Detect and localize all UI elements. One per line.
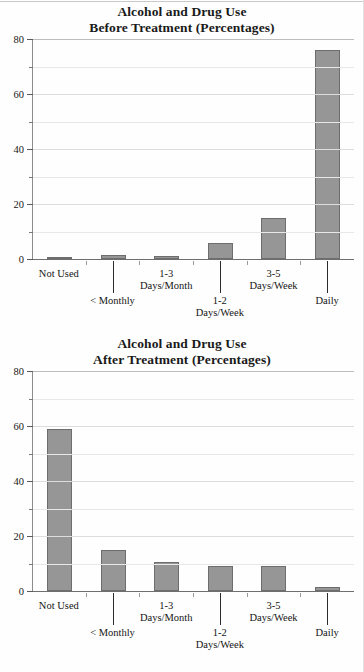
y-tick-40: [27, 149, 33, 150]
x-axis-label: < Monthly: [90, 295, 135, 307]
y-tick-20: [27, 204, 33, 205]
y-tick-80: [27, 371, 33, 372]
x-axis-label: 1-3Days/Month: [140, 268, 193, 291]
plot-wrap-after: 020406080 Not Used< Monthly1-3Days/Month…: [0, 372, 364, 604]
y-tick-70: [29, 67, 33, 68]
x-axis-before: Not Used< Monthly1-3Days/Month1-2Days/We…: [32, 261, 354, 323]
x-axis-label: Daily: [315, 295, 338, 307]
x-tick-minor: [86, 261, 87, 265]
x-tick-minor: [300, 261, 301, 265]
x-axis-label-line1: 1-3: [140, 268, 193, 280]
x-axis-label-line1: Daily: [315, 295, 338, 307]
x-label-leader: [113, 593, 114, 625]
x-tick-minor: [300, 593, 301, 597]
x-axis-label-line1: Not Used: [39, 268, 79, 280]
bar: [154, 562, 179, 591]
x-label-leader: [113, 261, 114, 293]
gridline-30: [33, 509, 354, 510]
y-axis-label: 40: [14, 477, 25, 487]
y-tick-0: [27, 591, 33, 592]
bar: [315, 50, 340, 259]
chart-title-line2: After Treatment (Percentages): [14, 352, 350, 368]
chart-title-after: Alcohol and Drug Use After Treatment (Pe…: [0, 336, 364, 368]
x-tick-minor: [139, 261, 140, 265]
x-axis-label: 1-3Days/Month: [140, 600, 193, 623]
axes-after: [32, 372, 354, 592]
bar: [261, 218, 286, 259]
y-axis-label: 80: [14, 367, 25, 377]
x-axis-label: Daily: [315, 627, 338, 639]
x-axis-label-line2: Days/Week: [249, 612, 297, 624]
y-axis-label: 60: [14, 422, 25, 432]
y-tick-70: [29, 399, 33, 400]
y-tick-50: [29, 122, 33, 123]
x-axis-label: < Monthly: [90, 627, 135, 639]
x-axis-label-line1: < Monthly: [90, 295, 135, 307]
x-axis-label: 3-5Days/Week: [249, 268, 297, 291]
y-tick-30: [29, 177, 33, 178]
figure-page: Alcohol and Drug Use Before Treatment (P…: [0, 0, 364, 672]
y-tick-10: [29, 232, 33, 233]
plot-area-after: [32, 372, 354, 592]
gridline-30: [33, 177, 354, 178]
x-tick-minor: [139, 593, 140, 597]
x-axis-label-line1: 1-2: [196, 295, 244, 307]
chart-after-treatment: Alcohol and Drug Use After Treatment (Pe…: [0, 336, 364, 672]
axes-before: [32, 40, 354, 260]
x-axis-label-line2: Days/Month: [140, 612, 193, 624]
x-axis-label-line1: Not Used: [39, 600, 79, 612]
gridline-70: [33, 399, 354, 400]
x-axis-label-line1: 1-3: [140, 600, 193, 612]
x-tick-minor: [247, 261, 248, 265]
x-axis-label-line2: Days/Week: [249, 280, 297, 292]
gridline-10: [33, 564, 354, 565]
y-axis-label: 0: [19, 255, 24, 265]
y-tick-0: [27, 259, 33, 260]
x-label-leader: [327, 261, 328, 293]
y-tick-80: [27, 39, 33, 40]
x-label-leader: [220, 261, 221, 293]
x-tick-minor: [86, 593, 87, 597]
x-tick-minor: [193, 593, 194, 597]
x-axis-label: 1-2Days/Week: [196, 295, 244, 318]
x-axis-label-line1: Daily: [315, 627, 338, 639]
chart-title-line2: Before Treatment (Percentages): [14, 20, 350, 36]
gridline-80: [33, 371, 354, 372]
bar: [208, 243, 233, 260]
gridline-20: [33, 204, 354, 205]
y-tick-60: [27, 426, 33, 427]
x-axis-label-line2: Days/Week: [196, 639, 244, 651]
chart-title-line1: Alcohol and Drug Use: [14, 4, 350, 20]
y-axis-label: 0: [19, 587, 24, 597]
y-axis-label: 80: [14, 35, 25, 45]
y-axis-labels-before: 020406080: [0, 40, 28, 260]
chart-title-line1: Alcohol and Drug Use: [14, 336, 350, 352]
gridline-60: [33, 426, 354, 427]
x-label-leader: [327, 593, 328, 625]
gridline-10: [33, 232, 354, 233]
plot-area-before: [32, 40, 354, 260]
x-axis-label-line1: < Monthly: [90, 627, 135, 639]
x-label-leader: [220, 593, 221, 625]
y-axis-label: 20: [14, 532, 25, 542]
x-axis-label-line2: Days/Month: [140, 280, 193, 292]
y-axis-label: 60: [14, 90, 25, 100]
x-axis-baseline-after: [33, 591, 354, 592]
x-axis-label-line2: Days/Week: [196, 307, 244, 319]
x-axis-label: Not Used: [39, 268, 79, 280]
gridline-50: [33, 122, 354, 123]
x-axis-label-line1: 1-2: [196, 627, 244, 639]
y-tick-30: [29, 509, 33, 510]
bar: [101, 550, 126, 591]
bar: [208, 566, 233, 591]
x-tick-minor: [193, 261, 194, 265]
y-axis-label: 40: [14, 145, 25, 155]
gridline-80: [33, 39, 354, 40]
x-axis-label: Not Used: [39, 600, 79, 612]
x-axis-label: 1-2Days/Week: [196, 627, 244, 650]
page-top-rule: [0, 1, 364, 2]
x-tick-minor: [247, 593, 248, 597]
x-axis-label-line1: 3-5: [249, 268, 297, 280]
bar: [261, 566, 286, 591]
plot-wrap-before: 020406080 Not Used< Monthly1-3Days/Month…: [0, 40, 364, 272]
